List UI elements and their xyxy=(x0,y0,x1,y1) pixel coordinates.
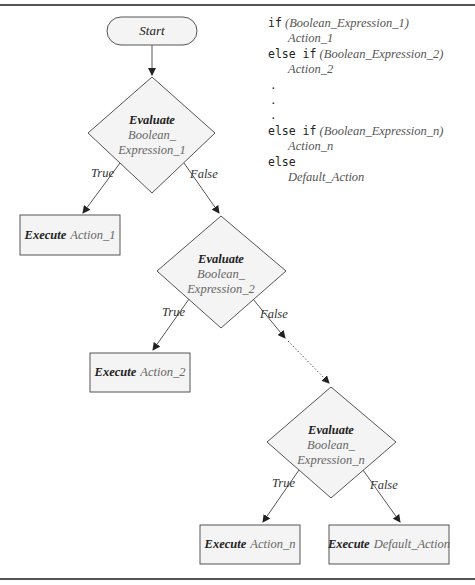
action-text-default: ExecuteDefault_Action xyxy=(329,525,449,564)
code-ellipsis-dot: . xyxy=(268,78,443,93)
false-label-1: False xyxy=(190,167,218,182)
true-label-2: True xyxy=(162,305,185,320)
code-ellipsis-dot: . xyxy=(268,108,443,123)
code-line-action-n: Action_n xyxy=(268,139,443,154)
start-label: Start xyxy=(107,17,197,45)
code-line-else: else xyxy=(268,155,443,170)
code-line-else-if-n: else if (Boolean_Expression_n) xyxy=(268,124,443,139)
decision-text-n: Evaluate Boolean_ Expression_n xyxy=(281,423,381,468)
action-text-1: ExecuteAction_1 xyxy=(20,215,120,255)
pseudocode-block: if (Boolean_Expression_1) Action_1 else … xyxy=(268,16,443,185)
true-label-1: True xyxy=(91,166,114,181)
false-label-2: False xyxy=(260,307,288,322)
code-line-else-if-2: else if (Boolean_Expression_2) xyxy=(268,47,443,62)
code-line-action-1: Action_1 xyxy=(268,31,443,46)
action-text-n: ExecuteAction_n xyxy=(200,525,300,564)
continuation-dotted-line xyxy=(288,341,329,383)
code-line-default-action: Default_Action xyxy=(268,170,443,185)
code-line-if: if (Boolean_Expression_1) xyxy=(268,16,443,31)
decision-text-1: Evaluate Boolean_ Expression_1 xyxy=(102,113,202,158)
code-ellipsis-dot: . xyxy=(268,93,443,108)
true-label-n: True xyxy=(272,476,295,491)
decision-text-2: Evaluate Boolean_ Expression_2 xyxy=(171,252,271,297)
false-label-n: False xyxy=(370,478,398,493)
code-line-action-2: Action_2 xyxy=(268,62,443,77)
action-text-2: ExecuteAction_2 xyxy=(90,353,190,392)
